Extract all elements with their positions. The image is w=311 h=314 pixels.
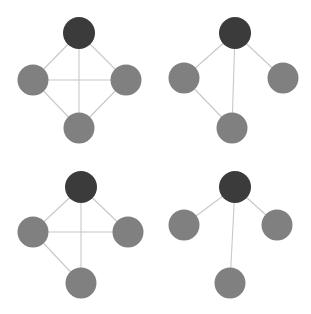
graph-node-top [219, 171, 251, 203]
graph-node-top [219, 17, 251, 49]
panel-bottom-right [169, 171, 293, 299]
panel-top-right [169, 17, 299, 144]
graph-figure [0, 0, 311, 314]
graph-node-bottom [217, 113, 248, 144]
graph-node-right [111, 65, 142, 96]
graph-node-left [169, 210, 200, 241]
graph-node-left [169, 63, 200, 94]
graph-grid [0, 0, 311, 314]
panel-bottom-left [18, 171, 144, 299]
graph-node-right [262, 210, 293, 241]
graph-node-right [113, 217, 144, 248]
graph-node-bottom [66, 268, 97, 299]
graph-node-top [65, 171, 97, 203]
graph-node-bottom [215, 268, 246, 299]
graph-node-bottom [64, 113, 95, 144]
graph-node-left [18, 65, 49, 96]
graph-node-right [268, 63, 299, 94]
graph-node-left [18, 217, 49, 248]
panel-top-left [18, 17, 142, 144]
graph-node-top [63, 17, 95, 49]
panel-bottom-right-nodes [169, 171, 293, 299]
